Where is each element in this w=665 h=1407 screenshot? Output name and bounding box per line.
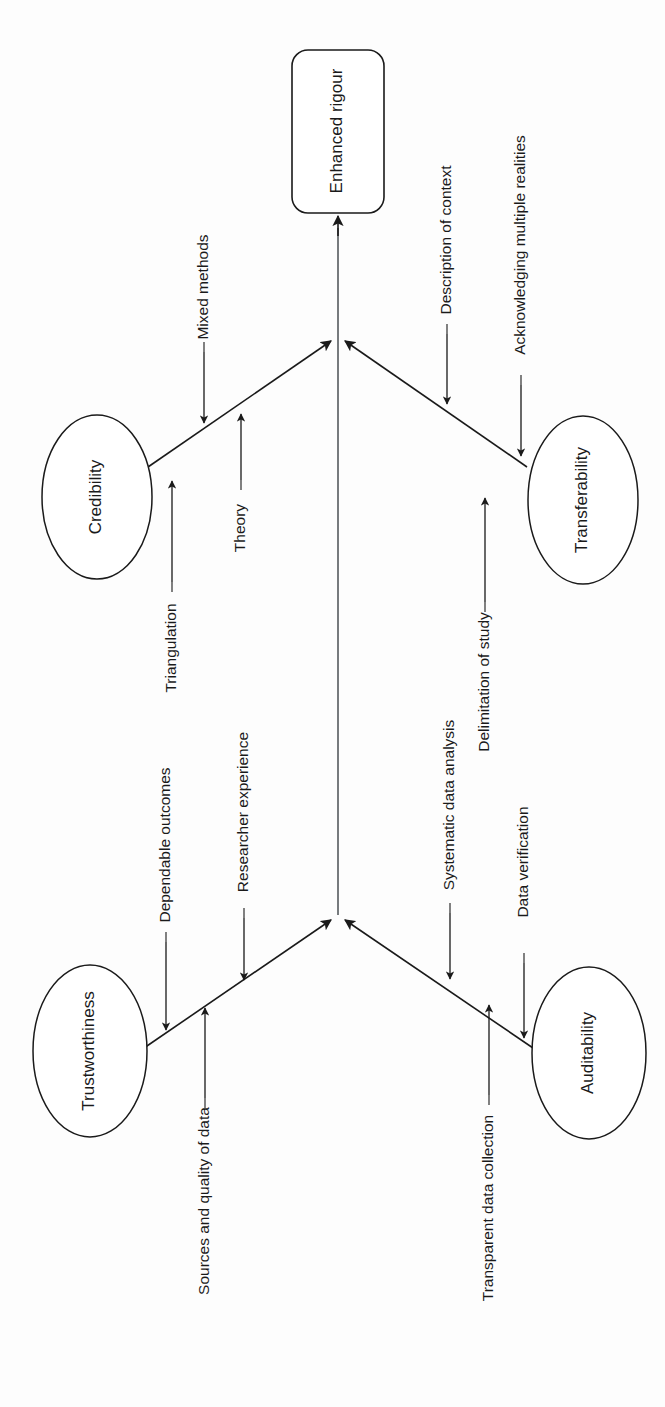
data-verification-label: Data verification [514, 806, 531, 917]
sources-and-quality-of-data-label: Sources and quality of data [195, 1107, 212, 1295]
triangulation-label: Triangulation [162, 603, 179, 692]
label-group-acknowledging-multiple-realities: Acknowledging multiple realities [511, 135, 528, 456]
label-group-data-verification: Data verification [514, 806, 531, 1038]
label-group-systematic-data-analysis: Systematic data analysis [440, 719, 457, 979]
concept-diagram: Enhanced rigour Credibility Transferabil… [0, 0, 665, 1407]
label-group-description-of-context: Description of context [437, 165, 454, 404]
central-node-enhanced-rigour[interactable]: Enhanced rigour [292, 50, 384, 213]
edge-trustworthiness-to-apex [144, 920, 331, 1048]
auditability-label: Auditability [578, 1011, 597, 1094]
edge-credibility-to-apex [148, 341, 331, 467]
label-group-sources-and-quality-of-data: Sources and quality of data [195, 1008, 212, 1295]
label-group-transparent-data-collection: Transparent data collection [479, 1005, 496, 1301]
node-transferability[interactable]: Transferability [528, 416, 638, 584]
mixed-methods-label: Mixed methods [194, 234, 211, 339]
description-of-context-label: Description of context [437, 165, 454, 315]
researcher-experience-label: Researcher experience [234, 732, 251, 892]
label-group-mixed-methods: Mixed methods [194, 234, 211, 423]
acknowledging-multiple-realities-label: Acknowledging multiple realities [511, 135, 528, 355]
node-credibility[interactable]: Credibility [42, 415, 152, 579]
central-node-label: Enhanced rigour [327, 68, 346, 193]
diagram-canvas: Enhanced rigour Credibility Transferabil… [0, 0, 665, 1407]
delimitation-of-study-label: Delimitation of study [475, 612, 492, 752]
label-group-theory: Theory [231, 414, 248, 552]
transferability-label: Transferability [572, 446, 591, 553]
systematic-data-analysis-label: Systematic data analysis [440, 719, 457, 890]
label-group-dependable-outcomes: Dependable outcomes [156, 767, 173, 1030]
label-group-researcher-experience: Researcher experience [234, 732, 251, 980]
transparent-data-collection-label: Transparent data collection [479, 1115, 496, 1301]
node-trustworthiness[interactable]: Trustworthiness [33, 965, 147, 1137]
node-auditability[interactable]: Auditability [532, 967, 646, 1139]
edge-transferability-to-apex [345, 341, 527, 467]
trustworthiness-label: Trustworthiness [79, 991, 98, 1110]
dependable-outcomes-label: Dependable outcomes [156, 767, 173, 922]
credibility-label: Credibility [86, 459, 105, 534]
theory-label: Theory [231, 504, 248, 552]
lower-v-group [144, 920, 533, 1048]
label-group-delimitation-of-study: Delimitation of study [475, 498, 492, 752]
edge-auditability-to-apex [345, 920, 533, 1048]
label-group-triangulation: Triangulation [162, 481, 179, 693]
